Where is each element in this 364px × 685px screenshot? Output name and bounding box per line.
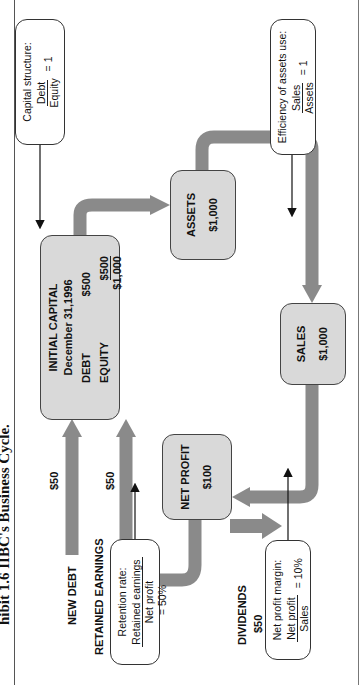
capital-structure-result: = 1 — [42, 57, 54, 72]
retention-denominator: Net profit — [143, 581, 155, 624]
diagram-page: hibit 1.6 IIBC's Business Cycle. — [0, 0, 364, 685]
net-profit-margin-title: Net profit margin: — [271, 541, 283, 659]
retention-note: Retention rate: Retained earningsNet pro… — [110, 539, 160, 665]
debt-label: DEBT — [80, 353, 92, 383]
new-debt-label: NEW DEBT — [66, 566, 78, 625]
efficiency-numerator: Sales — [290, 83, 303, 113]
arrowhead-retained — [116, 419, 136, 437]
sales-title: SALES — [295, 304, 307, 384]
assets-box: ASSETS $1,000 — [170, 170, 236, 260]
initial-capital-title: INITIAL CAPITAL — [47, 256, 59, 399]
net-profit-margin-numerator: Net profit — [285, 595, 298, 642]
capital-structure-numerator: Debt — [35, 80, 48, 106]
retention-result: = 50% — [156, 585, 168, 615]
net-profit-title: NET PROFIT — [179, 435, 191, 519]
arrowhead-netprofit — [232, 487, 250, 507]
capital-structure-note: Capital structure: DebtEquity = 1 — [15, 19, 65, 145]
net-profit-value: $100 — [201, 435, 213, 519]
net-profit-margin-denominator: Sales — [298, 605, 310, 631]
arrowhead-new-debt — [62, 419, 82, 437]
capital-structure-title: Capital structure: — [21, 20, 33, 144]
arrow-sales-to-netprofit — [250, 385, 312, 497]
efficiency-denominator: Assets — [303, 82, 315, 114]
efficiency-title: Efficiency of assets use: — [276, 20, 288, 154]
efficiency-result: = 1 — [297, 60, 309, 75]
dividends-label: DIVIDENDS — [236, 585, 248, 645]
dividends-shaft — [230, 519, 262, 533]
new-debt-amount: $50 — [48, 472, 60, 490]
equity-value: $500 — [98, 256, 111, 280]
retained-earnings-label: RETAINED EARNINGS — [93, 538, 105, 655]
debt-value: $500 — [80, 272, 92, 296]
arrow-capital-to-assets — [80, 205, 150, 235]
net-profit-margin-note: Net profit margin: Net profitSales = 10% — [265, 540, 311, 660]
dividends-amount: $50 — [252, 615, 264, 633]
retained-earnings-amount: $50 — [104, 472, 116, 490]
sales-box: SALES $1,000 — [280, 303, 346, 385]
initial-capital-box: INITIAL CAPITAL December 31,1996 DEBT $5… — [40, 235, 120, 420]
arrowhead-sales — [302, 285, 322, 303]
efficiency-note: Efficiency of assets use: SalesAssets = … — [270, 19, 316, 155]
total-capital: $1,000 — [111, 256, 123, 290]
assets-value: $1,000 — [207, 171, 219, 259]
sales-value: $1,000 — [317, 304, 329, 384]
arrowhead-dividends — [262, 513, 282, 539]
retention-numerator: Retained earnings — [130, 557, 143, 646]
net-profit-box: NET PROFIT $100 — [162, 434, 232, 520]
capital-structure-denominator: Equity — [48, 78, 60, 107]
net-profit-margin-result: = 10% — [292, 558, 304, 588]
retention-title: Retention rate: — [116, 540, 128, 664]
arrowhead-assets — [150, 195, 170, 215]
assets-title: ASSETS — [185, 171, 197, 259]
equity-label: EQUITY — [98, 342, 123, 383]
initial-capital-date: December 31,1996 — [62, 256, 74, 399]
